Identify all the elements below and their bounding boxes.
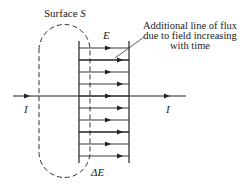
- surface-symbol: S: [80, 7, 86, 19]
- field-arrow-icon: [105, 142, 111, 147]
- surface-s-outline: [39, 25, 90, 178]
- field-arrow-icon: [105, 46, 111, 51]
- current-label-right: I: [166, 104, 170, 115]
- field-arrow-icon: [117, 58, 123, 63]
- surface-label: Surface S: [44, 8, 86, 19]
- field-arrow-icon: [117, 106, 123, 111]
- field-arrow-icon: [117, 82, 123, 87]
- field-arrow-icon: [117, 154, 123, 159]
- field-arrow-icon: [117, 130, 123, 135]
- current-arrow-right-icon: [164, 94, 170, 99]
- delta-field-label: ΔE: [91, 167, 104, 178]
- annotation-text: Additional line of flux due to field inc…: [134, 21, 246, 51]
- field-label-e: E: [103, 30, 110, 41]
- current-label-left: I: [24, 104, 28, 115]
- field-arrow-icon: [105, 70, 111, 75]
- current-arrow-left-icon: [24, 94, 30, 99]
- field-arrow-icon: [105, 118, 111, 123]
- field-lines: [79, 46, 129, 159]
- field-arrow-icon: [105, 94, 111, 99]
